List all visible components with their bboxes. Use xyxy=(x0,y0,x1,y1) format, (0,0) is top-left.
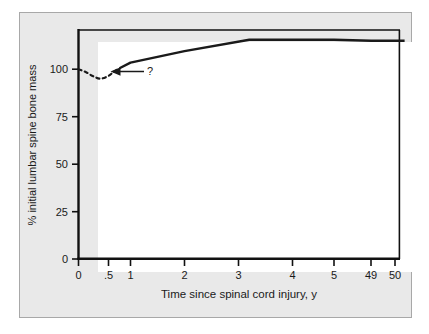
x-axis-title: Time since spinal cord injury, y xyxy=(78,288,400,300)
y-tick-label-25: 25 xyxy=(46,206,68,218)
y-tick-label-75: 75 xyxy=(46,111,68,123)
x-tick-label-1: 1 xyxy=(127,269,133,281)
figure-root: 100 75 50 25 0 0 .5 1 2 3 4 5 49 50 % in… xyxy=(0,0,429,334)
series-solid-observed xyxy=(120,40,405,68)
y-axis-title: % initial lumbar spine bone mass xyxy=(26,50,38,240)
x-tick-label-5: 5 xyxy=(331,269,337,281)
series-dashed-uncertain xyxy=(79,68,120,78)
x-tick-label-50: 50 xyxy=(389,269,401,281)
annotation-arrow xyxy=(111,67,145,76)
axes-spines xyxy=(77,29,400,260)
x-tick-label-2: 2 xyxy=(181,269,187,281)
y-tick-label-100: 100 xyxy=(46,63,68,75)
x-tick-label-4: 4 xyxy=(289,269,295,281)
x-axis-ticks xyxy=(79,259,396,266)
y-tick-label-50: 50 xyxy=(46,158,68,170)
x-tick-label-3: 3 xyxy=(235,269,241,281)
x-tick-label-0-5: .5 xyxy=(104,269,113,281)
y-tick-label-0: 0 xyxy=(46,253,68,265)
annotation-question-mark-label: ? xyxy=(147,65,153,77)
x-tick-label-0: 0 xyxy=(75,269,81,281)
x-tick-label-49: 49 xyxy=(365,269,377,281)
